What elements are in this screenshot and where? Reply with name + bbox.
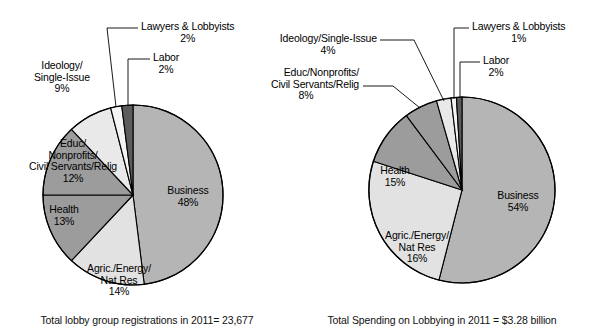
label-business-right: Business 54% [480, 190, 556, 213]
pie-chart-panel-right: Lawyers & Lobbyists 1% Labor 2% Ideology… [295, 0, 589, 332]
leader-line-ideology-right [380, 40, 444, 101]
label-labor-pct-right: 2% [483, 67, 509, 79]
label-ideology-pct-right: 4% [279, 45, 377, 57]
label-lawyers-name-left: Lawyers & Lobbyists [141, 20, 234, 32]
label-lawyers-pct-right: 1% [472, 33, 565, 45]
label-ideology-pct-left: 9% [14, 83, 110, 95]
label-health-pct-left: 13% [28, 216, 100, 228]
label-ideology-right: Ideology/Single-Issue 4% [279, 33, 377, 56]
label-educ-right: Educ/Nonprofits/ Civil Servants/Relig 8% [253, 67, 359, 102]
label-lawyers-lobbyists-right: Lawyers & Lobbyists 1% [472, 21, 565, 44]
label-health-right: Health 15% [359, 165, 431, 188]
leader-line-lawyers-right [454, 28, 469, 99]
label-labor-left: Labor 2% [153, 52, 179, 75]
leader-line-lawyers-left [107, 28, 138, 107]
label-labor-name-right: Labor [483, 54, 509, 66]
label-business-name-left: Business [150, 185, 226, 197]
label-agric-left: Agric./Energy/ Nat Res 14% [66, 263, 172, 298]
figure-two-pie-charts: Lawyers & Lobbyists 2% Labor 2% Ideology… [0, 0, 589, 332]
label-ideology-line1-left: Ideology/ [14, 60, 110, 72]
leader-line-labor-right [460, 62, 480, 97]
label-labor-right: Labor 2% [483, 55, 509, 78]
label-lawyers-lobbyists-left: Lawyers & Lobbyists 2% [141, 21, 234, 44]
label-ideology-name-right: Ideology/Single-Issue [279, 33, 377, 45]
label-business-pct-left: 48% [150, 197, 226, 209]
label-educ-line1-left: Educ/ [8, 138, 138, 150]
label-business-name-right: Business [480, 190, 556, 202]
label-ideology-left: Ideology/ Single-Issue 9% [14, 60, 110, 95]
label-health-left: Health 13% [28, 204, 100, 227]
label-agric-right: Agric./Energy/ Nat Res 16% [364, 230, 470, 265]
caption-right: Total Spending on Lobbying in 2011 = $3.… [295, 314, 589, 326]
label-lawyers-name-right: Lawyers & Lobbyists [472, 20, 565, 32]
label-agric-pct-right: 16% [364, 253, 470, 265]
leader-line-educ-right [363, 86, 420, 108]
pie-chart-panel-left: Lawyers & Lobbyists 2% Labor 2% Ideology… [0, 0, 294, 332]
label-health-name-left: Health [28, 204, 100, 216]
label-health-pct-right: 15% [359, 177, 431, 189]
label-agric-line1-right: Agric./Energy/ [364, 230, 470, 242]
leader-line-labor-left [128, 59, 150, 105]
label-agric-line1-left: Agric./Energy/ [66, 263, 172, 275]
label-educ-line1-right: Educ/Nonprofits/ [253, 67, 359, 79]
label-labor-pct-left: 2% [153, 64, 179, 76]
label-educ-pct-left: 12% [8, 173, 138, 185]
caption-left: Total lobby group registrations in 2011=… [0, 314, 294, 326]
label-agric-pct-left: 14% [66, 286, 172, 298]
label-educ-pct-right: 8% [253, 90, 359, 102]
label-educ-left: Educ/ Nonprofits/ Civil Servants/Relig 1… [8, 138, 138, 184]
label-lawyers-pct-left: 2% [141, 33, 234, 45]
label-business-left: Business 48% [150, 185, 226, 208]
label-health-name-right: Health [359, 165, 431, 177]
label-business-pct-right: 54% [480, 202, 556, 214]
label-labor-name-left: Labor [153, 51, 179, 63]
